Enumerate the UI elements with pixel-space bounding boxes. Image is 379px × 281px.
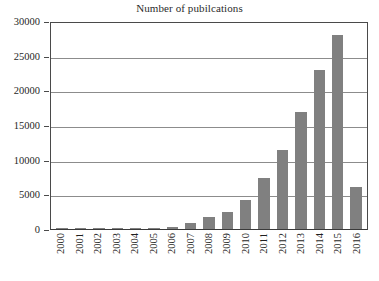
bar-slot bbox=[90, 23, 108, 229]
x-tick-slot: 2007 bbox=[181, 233, 199, 279]
y-axis: 300002500020000150001000050000 bbox=[0, 22, 44, 230]
bar[interactable] bbox=[75, 228, 86, 229]
x-tick-label: 2009 bbox=[222, 233, 233, 254]
x-tick-label: 2005 bbox=[148, 233, 159, 254]
bar-slot bbox=[218, 23, 236, 229]
bar-slot bbox=[182, 23, 200, 229]
bar-slot bbox=[347, 23, 365, 229]
bar[interactable] bbox=[93, 228, 104, 229]
bar-slot bbox=[53, 23, 71, 229]
bar[interactable] bbox=[112, 228, 123, 229]
bar-slot bbox=[145, 23, 163, 229]
x-tick-slot: 2002 bbox=[89, 233, 107, 279]
bar[interactable] bbox=[203, 217, 214, 229]
x-tick-slot: 2013 bbox=[292, 233, 310, 279]
x-tick-slot: 2000 bbox=[52, 233, 70, 279]
x-tick-slot: 2011 bbox=[255, 233, 273, 279]
x-tick-slot: 2003 bbox=[107, 233, 125, 279]
bar[interactable] bbox=[332, 35, 343, 229]
x-tick-label: 2011 bbox=[259, 233, 270, 254]
bar-slot bbox=[237, 23, 255, 229]
bar-slot bbox=[200, 23, 218, 229]
x-tick-label: 2014 bbox=[315, 233, 326, 254]
x-tick-slot: 2001 bbox=[70, 233, 88, 279]
x-tick-slot: 2015 bbox=[329, 233, 347, 279]
bar[interactable] bbox=[148, 228, 159, 229]
y-tick-label: 20000 bbox=[14, 86, 40, 96]
bar[interactable] bbox=[295, 112, 306, 229]
x-tick-label: 2010 bbox=[241, 233, 252, 254]
x-tick-label: 2015 bbox=[333, 233, 344, 254]
y-tick-label: 5000 bbox=[19, 190, 40, 200]
y-tick-mark bbox=[44, 22, 49, 23]
x-tick-slot: 2012 bbox=[274, 233, 292, 279]
x-tick-slot: 2016 bbox=[348, 233, 366, 279]
y-tick-mark bbox=[44, 230, 49, 231]
bar[interactable] bbox=[350, 187, 361, 229]
plot-area bbox=[50, 22, 368, 230]
bar-slot bbox=[71, 23, 89, 229]
x-tick-label: 2006 bbox=[167, 233, 178, 254]
x-tick-slot: 2014 bbox=[311, 233, 329, 279]
chart-title: Number of pubilcations bbox=[0, 2, 379, 14]
bar[interactable] bbox=[258, 178, 269, 229]
x-tick-label: 2012 bbox=[278, 233, 289, 254]
bar[interactable] bbox=[56, 228, 67, 229]
y-tick-label: 10000 bbox=[14, 156, 40, 166]
x-tick-slot: 2004 bbox=[126, 233, 144, 279]
x-tick-label: 2002 bbox=[93, 233, 104, 254]
x-tick-label: 2007 bbox=[185, 233, 196, 254]
bar[interactable] bbox=[130, 228, 141, 229]
x-tick-label: 2016 bbox=[351, 233, 362, 254]
y-tick-label: 30000 bbox=[14, 17, 40, 27]
x-tick-label: 2008 bbox=[204, 233, 215, 254]
bar[interactable] bbox=[185, 223, 196, 229]
bar-slot bbox=[310, 23, 328, 229]
bar-series bbox=[51, 23, 367, 229]
bar-slot bbox=[273, 23, 291, 229]
bar-slot bbox=[292, 23, 310, 229]
x-tick-label: 2004 bbox=[130, 233, 141, 254]
x-tick-label: 2013 bbox=[296, 233, 307, 254]
y-tick-mark bbox=[44, 91, 49, 92]
bar[interactable] bbox=[222, 212, 233, 229]
y-tick-label: 15000 bbox=[14, 121, 40, 131]
bar[interactable] bbox=[240, 200, 251, 229]
bar-chart-figure: Number of pubilcations 30000250002000015… bbox=[0, 0, 379, 281]
bar-slot bbox=[255, 23, 273, 229]
y-tick-mark bbox=[44, 161, 49, 162]
x-tick-label: 2003 bbox=[111, 233, 122, 254]
y-tick-mark bbox=[44, 126, 49, 127]
x-tick-slot: 2008 bbox=[200, 233, 218, 279]
bar[interactable] bbox=[277, 150, 288, 229]
y-tick-label: 25000 bbox=[14, 52, 40, 62]
y-tick-label: 0 bbox=[35, 225, 40, 235]
bar-slot bbox=[328, 23, 346, 229]
bar-slot bbox=[108, 23, 126, 229]
x-tick-slot: 2005 bbox=[144, 233, 162, 279]
x-axis: 2000200120022003200420052006200720082009… bbox=[50, 233, 368, 279]
bar-slot bbox=[163, 23, 181, 229]
x-tick-slot: 2009 bbox=[218, 233, 236, 279]
bar[interactable] bbox=[167, 227, 178, 229]
bar[interactable] bbox=[314, 70, 325, 229]
x-tick-label: 2001 bbox=[74, 233, 85, 254]
x-tick-slot: 2010 bbox=[237, 233, 255, 279]
y-tick-mark bbox=[44, 195, 49, 196]
x-tick-slot: 2006 bbox=[163, 233, 181, 279]
bar-slot bbox=[126, 23, 144, 229]
y-tick-mark bbox=[44, 57, 49, 58]
x-tick-label: 2000 bbox=[56, 233, 67, 254]
